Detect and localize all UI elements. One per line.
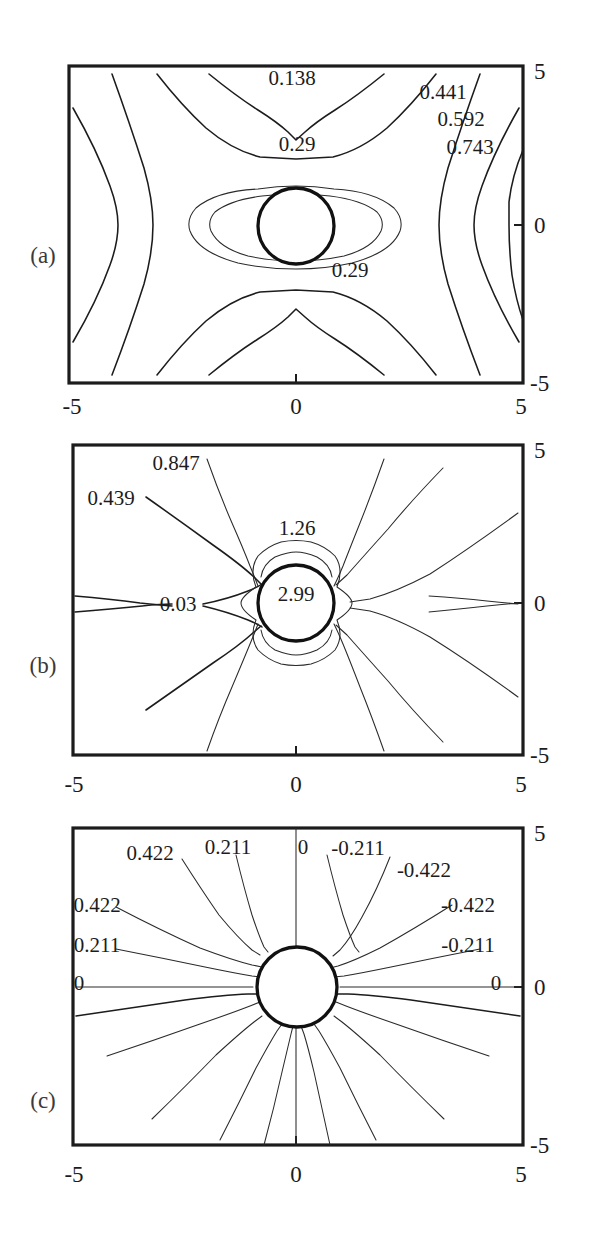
panel-c: 0.422 0.211 0 -0.211 -0.422 0.422 0.211 … [0,810,595,1210]
panel-a-contour-label-0: 0.138 [268,66,315,90]
panel-c-xtick-label-left: -5 [64,1162,83,1187]
panel-a-xtick-label-left: -5 [62,394,81,419]
panel-c-contour-label-9: -0.211 [441,933,494,957]
panel-a-contour-label-1: 0.441 [419,80,466,104]
panel-b-contour-label-0: 0.847 [152,451,199,475]
panel-c-contour-label-4: -0.422 [397,858,451,882]
panel-a-ytick-label-bottom: -5 [530,371,549,396]
panel-b-ytick-label-mid: 0 [534,591,546,616]
panel-a-xtick-label-mid: 0 [290,394,302,419]
panel-c-contour-label-6: 0.211 [74,933,120,957]
panel-a-contour-label-3: 0.743 [446,135,493,159]
panel-a-contour-label-2: 0.592 [437,107,484,131]
panel-b-contour-label-4: 2.99 [278,582,315,606]
panel-c-contour-label-7: 0 [74,971,85,995]
panel-b-contour-label-3: 0.03 [160,592,197,616]
panel-a-contour-label-5: 0.29 [332,258,369,282]
panel-c-xtick-label-mid: 0 [290,1162,302,1187]
panel-c-contour-label-3: -0.211 [331,836,384,860]
panel-c-plot: 0.422 0.211 0 -0.211 -0.422 0.422 0.211 … [0,810,595,1210]
panel-a-plot: 0.138 0.441 0.592 0.743 0.29 0.29 (a) 5 … [0,0,595,420]
panel-b-contour-label-2: 1.26 [279,516,316,540]
panel-c-contour-label-2: 0 [298,835,309,859]
contour-figure: 0.138 0.441 0.592 0.743 0.29 0.29 (a) 5 … [0,0,595,1243]
panel-c-xtick-label-right: 5 [515,1162,527,1187]
panel-b-xtick-label-left: -5 [64,772,83,797]
panel-c-cylinder [257,947,337,1027]
panel-b: 0.847 0.439 1.26 0.03 2.99 (b) 5 0 -5 -5… [0,420,595,810]
panel-c-ytick-label-top: 5 [534,821,546,846]
panel-c-contour-label-8: -0.422 [441,893,495,917]
panel-a-xtick-label-right: 5 [515,394,527,419]
panel-a-contour-label-4: 0.29 [279,132,316,156]
panel-b-xtick-label-mid: 0 [290,772,302,797]
panel-c-ytick-label-bottom: -5 [530,1133,549,1158]
panel-b-plot: 0.847 0.439 1.26 0.03 2.99 (b) 5 0 -5 -5… [0,420,595,810]
panel-a-tag: (a) [30,243,56,268]
panel-a-ytick-label-top: 5 [534,59,546,84]
panel-b-contour-label-1: 0.439 [87,486,134,510]
panel-c-contour-label-1: 0.211 [205,835,251,859]
panel-c-contour-label-5: 0.422 [73,893,120,917]
panel-a: 0.138 0.441 0.592 0.743 0.29 0.29 (a) 5 … [0,0,595,420]
panel-c-contour-label-10: 0 [491,971,502,995]
panel-b-ytick-label-bottom: -5 [530,743,549,768]
panel-b-tag: (b) [30,653,57,678]
panel-b-ytick-label-top: 5 [534,438,546,463]
panel-a-cylinder [258,188,334,264]
panel-a-ytick-label-mid: 0 [534,213,546,238]
panel-b-xtick-label-right: 5 [515,772,527,797]
panel-c-ytick-label-mid: 0 [534,975,546,1000]
panel-c-tag: (c) [30,1088,56,1113]
panel-c-contour-label-0: 0.422 [126,841,173,865]
